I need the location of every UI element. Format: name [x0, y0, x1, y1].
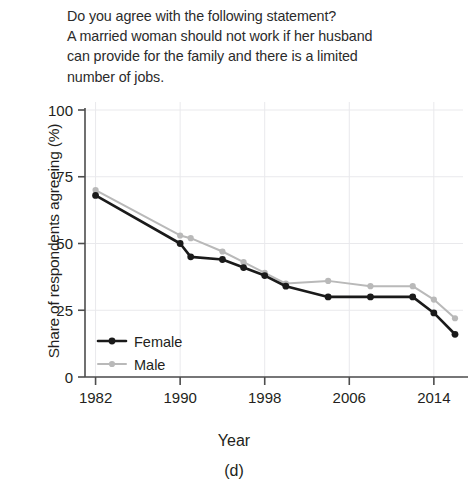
- y-tick-label: 0: [65, 369, 73, 386]
- data-point: [431, 296, 437, 302]
- data-point: [409, 294, 416, 301]
- y-tick-label: 100: [48, 102, 73, 119]
- x-tick-label: 2006: [333, 389, 366, 406]
- chart-figure: Do you agree with the following statemen…: [0, 0, 468, 492]
- x-tick-labels: 19821990199820062014: [79, 389, 451, 406]
- x-tick-label: 1998: [248, 389, 281, 406]
- legend-item-male[interactable]: Male: [98, 357, 165, 373]
- data-point: [430, 310, 437, 317]
- data-point: [325, 278, 331, 284]
- data-point: [367, 294, 374, 301]
- data-point: [187, 253, 194, 260]
- data-point: [177, 232, 183, 238]
- data-point: [219, 256, 226, 263]
- data-point: [240, 264, 247, 271]
- y-tick-label: 75: [56, 168, 73, 185]
- legend-marker: [109, 338, 116, 345]
- data-point: [282, 283, 289, 290]
- legend-label: Male: [134, 357, 165, 373]
- x-tickmarks: [96, 377, 434, 385]
- line-chart-plot: 0255075100 19821990199820062014 FemaleMa…: [0, 0, 468, 492]
- y-tick-labels: 0255075100: [48, 102, 73, 386]
- y-tick-label: 25: [56, 302, 73, 319]
- data-point: [410, 283, 416, 289]
- data-point: [367, 283, 373, 289]
- x-tick-label: 1990: [163, 389, 196, 406]
- x-tick-label: 1982: [79, 389, 112, 406]
- chart-legend: FemaleMale: [98, 334, 182, 373]
- series-male: [92, 187, 458, 321]
- data-point: [92, 192, 99, 199]
- legend-label: Female: [134, 334, 182, 350]
- series-line: [96, 190, 455, 318]
- data-point: [452, 331, 459, 338]
- data-point: [219, 248, 225, 254]
- data-point: [452, 315, 458, 321]
- data-point: [188, 235, 194, 241]
- legend-marker: [109, 361, 115, 367]
- series-line: [96, 195, 455, 334]
- data-point: [261, 272, 268, 279]
- y-tickmarks: [78, 110, 85, 377]
- series-female: [92, 192, 458, 338]
- data-point: [177, 240, 184, 247]
- legend-item-female[interactable]: Female: [98, 334, 182, 350]
- data-point: [325, 294, 332, 301]
- y-tick-label: 50: [56, 235, 73, 252]
- x-tick-label: 2014: [417, 389, 450, 406]
